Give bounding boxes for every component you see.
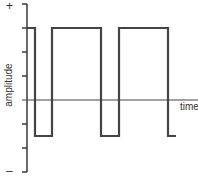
y-axis bbox=[22, 4, 27, 172]
square-wave-diagram bbox=[0, 0, 198, 177]
positive-marker: + bbox=[6, 0, 13, 12]
x-axis-label: time bbox=[180, 102, 198, 112]
y-axis-label: amplitude bbox=[4, 60, 14, 110]
square-wave-line bbox=[27, 28, 176, 136]
negative-marker: – bbox=[6, 165, 13, 177]
